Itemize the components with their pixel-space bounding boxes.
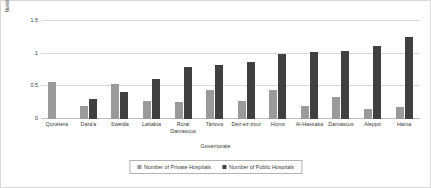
x-axis-tick-label: Damascus: [325, 121, 357, 143]
x-axis-tick-label: Dara'a: [73, 121, 105, 143]
legend-swatch-private-icon: [137, 165, 141, 169]
x-axis-tick-label: Homs: [262, 121, 294, 143]
bar-public[interactable]: [278, 54, 286, 119]
bar-private[interactable]: [396, 107, 404, 119]
bar-private[interactable]: [80, 106, 88, 119]
bar-group: [388, 21, 420, 119]
bar-private[interactable]: [111, 84, 119, 119]
legend-label-private: Number of Private Hospitals: [144, 164, 211, 170]
bar-series-group: [41, 21, 420, 119]
bar-group: [262, 21, 294, 119]
bar-public[interactable]: [405, 37, 413, 119]
bar-group: [325, 21, 357, 119]
bar-public[interactable]: [89, 99, 97, 119]
x-axis-tick-label: Sweida: [104, 121, 136, 143]
bar-private[interactable]: [301, 106, 309, 119]
y-axis-tick-label: 1.5: [31, 17, 39, 23]
y-axis-title: Number of Hospitals per 50,000 people: [3, 0, 13, 25]
bar-private[interactable]: [143, 101, 151, 119]
legend-label-public: Number of Public Hospitals: [229, 164, 294, 170]
x-axis-tick-label: Tartous: [199, 121, 231, 143]
y-axis-title-wrapper: Number of Hospitals per 50,000 people: [1, 1, 15, 131]
bar-public[interactable]: [152, 79, 160, 120]
bar-group: [136, 21, 168, 119]
bar-private[interactable]: [269, 90, 277, 119]
bar-private[interactable]: [364, 109, 372, 119]
x-axis-tick-label: Hama: [388, 121, 420, 143]
y-axis-tick-label: 0.5: [31, 82, 39, 88]
x-axis-tick-label: Qunetera: [41, 121, 73, 143]
bar-group: [357, 21, 389, 119]
bar-private[interactable]: [332, 97, 340, 119]
bar-group: [294, 21, 326, 119]
bar-group: [41, 21, 73, 119]
bar-group: [167, 21, 199, 119]
bar-public[interactable]: [247, 62, 255, 119]
legend-item-public[interactable]: Number of Public Hospitals: [222, 164, 294, 170]
bar-public[interactable]: [310, 52, 318, 119]
chart-container: Number of Hospitals per 50,000 people 00…: [0, 0, 431, 188]
x-axis-tick-labels: QuneteraDara'aSweidaLattakiaRural Damasc…: [41, 121, 420, 143]
legend-item-private[interactable]: Number of Private Hospitals: [137, 164, 211, 170]
bar-private[interactable]: [206, 90, 214, 119]
bar-public[interactable]: [120, 92, 128, 119]
bar-private[interactable]: [175, 102, 183, 119]
bar-group: [104, 21, 136, 119]
y-axis-tick-label: 0: [35, 115, 38, 121]
bar-group: [73, 21, 105, 119]
x-axis-title: Governorate: [1, 143, 430, 150]
x-axis-tick-label: Rural Damascus: [167, 121, 199, 143]
bar-group: [230, 21, 262, 119]
bar-public[interactable]: [373, 46, 381, 119]
y-axis-tick-label: 1: [35, 50, 38, 56]
bar-private[interactable]: [238, 101, 246, 119]
x-axis-tick-label: Lattakia: [136, 121, 168, 143]
x-axis-tick-label: Aleppo: [357, 121, 389, 143]
x-axis-tick-label: Al-Hassaka: [294, 121, 326, 143]
chart-legend: Number of Private Hospitals Number of Pu…: [129, 160, 302, 174]
bar-public[interactable]: [341, 51, 349, 119]
legend-swatch-public-icon: [222, 165, 226, 169]
bar-private[interactable]: [48, 82, 56, 119]
plot-area: 00.511.5: [41, 21, 420, 119]
bar-public[interactable]: [184, 67, 192, 119]
x-axis-tick-label: Deir-ez-zour: [230, 121, 262, 143]
bar-public[interactable]: [215, 65, 223, 119]
bar-group: [199, 21, 231, 119]
